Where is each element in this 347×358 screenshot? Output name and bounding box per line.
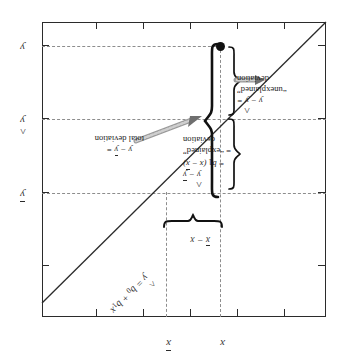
label-unexplained-deviation: y − y = “unexplained” deviation	[237, 72, 299, 106]
y-bar-label-text: y	[20, 189, 25, 201]
total-dev-y: y	[128, 145, 132, 155]
unexplained-dev-y-hat: y	[245, 95, 249, 106]
explained-dev-b-sub: 1	[209, 157, 213, 166]
figure-canvas: x x y y y	[0, 0, 347, 358]
total-dev-minus: −	[118, 145, 128, 155]
x-span-trail: x	[190, 235, 194, 245]
total-dev-eq: =	[106, 145, 114, 155]
explained-deviation-caption-2: deviation	[183, 134, 295, 145]
x-label-text: x	[220, 338, 225, 350]
explained-dev-paren: (x −	[190, 159, 209, 169]
unexplained-deviation-caption-2: deviation	[237, 72, 299, 83]
label-explained-deviation: y − y = b1 (x − x) = “explained” deviati…	[183, 134, 295, 180]
label-x-minus-x-bar: x − x	[190, 235, 210, 245]
label-total-deviation: y − y = total deviation	[95, 133, 144, 155]
y-axis-label-y-bar: y	[20, 189, 25, 201]
unexplained-deviation-caption-1: “unexplained”	[237, 84, 299, 95]
unexplained-dev-y: y	[259, 96, 263, 106]
y-hat-label-text: y	[20, 115, 25, 127]
total-dev-y-bar: y	[114, 144, 118, 155]
x-bar-label-text: x	[166, 338, 171, 350]
explained-dev-b: = b	[212, 159, 224, 169]
unexplained-deviation-equation: y − y =	[237, 95, 299, 106]
y-axis-label-y: y	[20, 42, 25, 54]
unexplained-dev-minus: −	[249, 96, 259, 106]
explained-dev-y-hat: y	[197, 169, 201, 180]
explained-deviation-caption-1: = “explained”	[183, 145, 295, 156]
x-span-lead: x	[206, 235, 210, 245]
y-label-text: y	[20, 42, 25, 54]
total-deviation-caption: total deviation	[95, 133, 144, 144]
x-axis-label-x: x	[220, 338, 225, 350]
x-axis-label-x-bar: x	[166, 338, 171, 350]
y-axis-label-y-hat: y	[20, 115, 25, 127]
x-span-minus: −	[195, 235, 206, 245]
explained-dev-y-bar: y	[183, 169, 187, 180]
total-deviation-equation: y − y =	[95, 144, 144, 155]
explained-dev-x-bar: x	[186, 158, 190, 169]
brace-x-deviation	[163, 214, 223, 228]
explained-deviation-eq-line2: = b1 (x − x)	[183, 156, 295, 169]
explained-deviation-eq-line1: y − y	[183, 169, 295, 180]
